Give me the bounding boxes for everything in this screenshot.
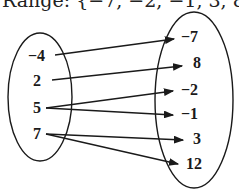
- domain-value: 7: [33, 125, 41, 142]
- range-value: −2: [181, 81, 198, 98]
- mapping-arrow: [55, 39, 174, 55]
- range-value: −7: [181, 28, 198, 45]
- domain-value: 2: [33, 72, 41, 89]
- mapping-arrow: [46, 108, 173, 115]
- mapping-diagram: −4 2 5 7 −7 8 −2 −1 3 12: [0, 0, 239, 191]
- domain-value: −4: [28, 47, 45, 64]
- range-value: 12: [186, 155, 202, 172]
- mapping-arrow: [52, 66, 182, 80]
- range-value: −1: [181, 105, 198, 122]
- domain-value: 5: [33, 99, 41, 116]
- range-value: 3: [193, 130, 201, 147]
- mapping-arrow: [46, 91, 173, 108]
- range-value: 8: [193, 54, 201, 71]
